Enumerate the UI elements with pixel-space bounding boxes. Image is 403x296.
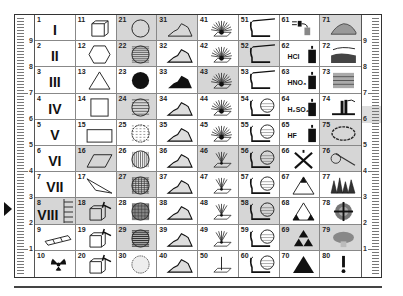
- ruler-tick: [372, 138, 379, 139]
- symbol-cell: 30: [117, 251, 158, 277]
- blowpipe-sphere-icon: [247, 254, 278, 275]
- ruler-tick: [372, 168, 379, 169]
- cube-icon: [84, 18, 115, 39]
- triangle-icon: [84, 70, 115, 91]
- ruler-tick: [372, 219, 379, 220]
- ruler-tick: [17, 96, 24, 97]
- ruler-tick: [372, 81, 379, 82]
- bottom-divider: [14, 286, 382, 288]
- symbol-cell: 6VI: [35, 146, 76, 172]
- rays-plane-icon: [206, 44, 237, 65]
- blowpipe-sphere-icon: [247, 97, 278, 118]
- chart-sheet: 987654321 1I112131415161712II12223242526…: [14, 14, 382, 278]
- curl-icon: [328, 149, 359, 170]
- fossil-icon: [328, 228, 359, 249]
- symbol-cell: 41: [198, 15, 239, 41]
- ruler-tick: [372, 54, 379, 55]
- rays-narrow-icon: [206, 201, 237, 222]
- symbol-cell: 38: [157, 198, 198, 224]
- mound-dots-icon: [328, 18, 359, 39]
- ruler-tick: [17, 225, 24, 226]
- fibrous-block-icon: [328, 70, 359, 91]
- symbol-cell: 75: [320, 120, 361, 146]
- cell-number: 9: [37, 226, 41, 234]
- broken-box-hammer-icon: [84, 254, 115, 275]
- symbol-cell: 72: [320, 41, 361, 67]
- box-hammer-icon: [84, 228, 115, 249]
- ruler-tick: [17, 18, 24, 19]
- blowpipe-sphere-icon: [247, 228, 278, 249]
- triangle-corners-filled-icon: [288, 201, 319, 222]
- symbol-cell: 9: [35, 225, 76, 251]
- ruler-label: 5: [29, 141, 33, 148]
- ruler-tick: [17, 21, 24, 22]
- chemical-formula-label: H₂SO₄: [288, 106, 310, 113]
- ruler-label: 1: [29, 245, 33, 252]
- symbol-cell: 37: [157, 172, 198, 198]
- ruler-tick: [372, 105, 379, 106]
- symbol-cell: 61: [280, 15, 321, 41]
- ruler-tick: [372, 222, 379, 223]
- single-ray-plane-icon: [206, 254, 237, 275]
- ruler-tick: [372, 18, 379, 19]
- ruler-tick: [17, 120, 24, 121]
- roman-numeral-label: IV: [35, 101, 75, 117]
- ruler-tick: [372, 27, 379, 28]
- exclamation-icon: [328, 254, 359, 275]
- roman-numeral-label: VII: [35, 179, 75, 195]
- ruler-tick: [17, 249, 28, 250]
- symbol-cell: 39: [157, 225, 198, 251]
- ruler-tick: [17, 141, 24, 142]
- ruler-tick: [372, 72, 379, 73]
- ruler-tick: [372, 150, 379, 151]
- ruler-tick: [372, 270, 379, 271]
- symbol-cell: 40: [157, 251, 198, 277]
- symbol-cell: 22: [117, 41, 158, 67]
- ruler-tick: [17, 207, 24, 208]
- symbol-cell: 58: [239, 198, 280, 224]
- ruler-tick: [372, 63, 379, 64]
- symbol-cell: 80!: [320, 251, 361, 277]
- symbol-cell: 42: [198, 41, 239, 67]
- symbol-cell: 2II: [35, 41, 76, 67]
- ruler-tick: [372, 180, 379, 181]
- ruler-tick: [17, 90, 24, 91]
- layered-rock-icon: [328, 44, 359, 65]
- symbol-cell: 24: [117, 94, 158, 120]
- ruler-tick: [372, 255, 379, 256]
- radiation-icon: [43, 254, 74, 275]
- circle-vertical-lines-icon: [125, 149, 156, 170]
- ruler-label: 6: [363, 115, 367, 122]
- ruler-tick: [17, 63, 24, 64]
- ruler-label: 2: [29, 219, 33, 226]
- symbol-cell: 5V: [35, 120, 76, 146]
- symbol-cell: 66: [280, 146, 321, 172]
- ruler-tick: [17, 150, 24, 151]
- ruler-tick: [372, 216, 379, 217]
- symbol-cell: 76: [320, 146, 361, 172]
- rays-narrow-icon: [206, 175, 237, 196]
- symbol-cell: 18: [76, 198, 117, 224]
- right-ruler: 987654321: [361, 15, 381, 277]
- ruler-tick: [372, 21, 379, 22]
- ruler-tick: [17, 252, 24, 253]
- ruler-tick: [372, 141, 379, 142]
- ruler-label: 4: [29, 167, 33, 174]
- ruler-tick: [372, 153, 379, 154]
- symbol-cell: 15: [76, 120, 117, 146]
- symbol-cell: 31: [157, 15, 198, 41]
- thin-triangle-icon: [84, 175, 115, 196]
- ruler-tick: [17, 156, 24, 157]
- ruler-tick: [17, 180, 24, 181]
- ruler-tick: [17, 228, 24, 229]
- symbol-cell: 79: [320, 225, 361, 251]
- symbol-cell: 73: [320, 67, 361, 93]
- symbol-cell: 49: [198, 225, 239, 251]
- circle-empty-icon: [125, 18, 156, 39]
- symbol-cell: 56: [239, 146, 280, 172]
- mountain-texture-icon: [165, 254, 196, 275]
- ruler-tick: [372, 111, 379, 112]
- ruler-tick: [17, 132, 24, 133]
- ruler-tick: [372, 189, 379, 190]
- ruler-tick: [372, 204, 379, 205]
